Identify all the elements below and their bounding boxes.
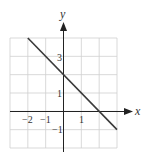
axes: x y: [10, 7, 141, 152]
x-tick-label: −2: [22, 114, 33, 125]
x-tick-label: −1: [40, 114, 51, 125]
y-tick-label: 1: [57, 88, 62, 99]
y-tick-label: −1: [52, 124, 63, 135]
x-axis-arrow-icon: [124, 108, 133, 115]
coordinate-plane: x y −2 −1 1 3 1 −1: [0, 0, 146, 158]
x-tick-label: 1: [79, 114, 84, 125]
y-axis-arrow-icon: [60, 22, 67, 31]
x-axis-label: x: [134, 104, 141, 118]
y-tick-label: 3: [57, 52, 62, 63]
y-axis-label: y: [59, 7, 66, 21]
